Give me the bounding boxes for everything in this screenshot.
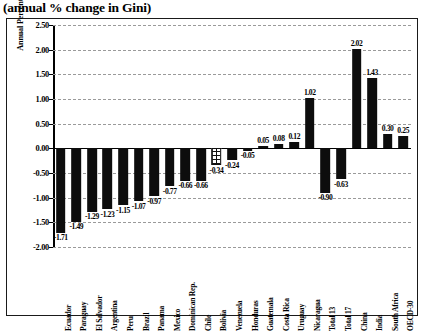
x-axis-category-labels: EcuadorParaguayEl SalvadorArgentinaPeruB… (53, 253, 411, 333)
y-axis-tick-mark (49, 247, 53, 248)
x-axis-label: Venezuela (235, 301, 244, 331)
bar[interactable] (87, 148, 97, 212)
bar-value-label: 0.25 (397, 126, 409, 135)
y-axis-tick-label: -2.00 (33, 243, 49, 252)
bar[interactable] (56, 148, 66, 232)
bar-slot: 0.05 (255, 25, 271, 247)
bar[interactable] (196, 148, 206, 181)
x-axis-label: Panama (157, 306, 166, 331)
bar-slot: -0.24 (224, 25, 240, 247)
bar-slot: -0.05 (240, 25, 256, 247)
x-axis-label: Bolivia (219, 310, 228, 331)
bar[interactable] (180, 148, 190, 181)
bar-value-label: 2.02 (351, 39, 363, 48)
bar-value-label: 0.30 (382, 124, 394, 133)
bar-slot: -1.23 (100, 25, 116, 247)
plot-area: 2.502.001.501.000.500.00-0.50-1.00-1.50-… (53, 25, 411, 247)
bar[interactable] (118, 148, 128, 205)
bar-slot: 1.43 (364, 25, 380, 247)
y-axis-tick-label: 1.00 (36, 95, 49, 104)
y-axis-tick-label: -1.50 (33, 218, 49, 227)
x-axis-label: South Africa (391, 293, 400, 331)
y-axis-tick-label: 2.00 (36, 45, 49, 54)
bar-series: -1.71-1.49-1.29-1.23-1.15-1.07-0.97-0.77… (53, 25, 411, 247)
bar-slot: -0.34 (209, 25, 225, 247)
x-axis-label: Honduras (251, 301, 260, 332)
bar[interactable] (367, 78, 377, 149)
bar[interactable] (165, 148, 175, 186)
x-axis-label: Chile (204, 315, 213, 331)
x-axis-label: Brazil (142, 313, 151, 331)
bar[interactable] (103, 148, 113, 209)
bar-value-label: -1.07 (132, 202, 146, 211)
bar-value-label: -0.77 (163, 187, 177, 196)
x-axis-label: Nicaragua (313, 300, 322, 332)
x-axis-label: India (375, 315, 384, 331)
x-axis-label: China (360, 312, 369, 331)
x-axis-label: Dominican Rep. (188, 282, 197, 331)
bar[interactable] (274, 144, 284, 148)
bar[interactable] (305, 98, 315, 148)
x-axis-label: Total 13 (328, 307, 337, 331)
bar[interactable] (258, 146, 268, 148)
bar-value-label: 1.02 (304, 88, 316, 97)
bar-slot: 1.02 (302, 25, 318, 247)
x-axis-label: OECD-30 (406, 301, 415, 331)
bar-slot: -1.49 (69, 25, 85, 247)
bar[interactable] (289, 142, 299, 148)
bar-slot: -1.29 (84, 25, 100, 247)
x-axis-label: Ecuador (64, 305, 73, 331)
bar-slot: 0.08 (271, 25, 287, 247)
bar-value-label: -1.49 (69, 222, 83, 231)
gridline (53, 247, 411, 248)
bar-slot: -1.71 (53, 25, 69, 247)
bar-slot: -0.66 (193, 25, 209, 247)
bar-slot: 0.30 (380, 25, 396, 247)
y-axis-tick-label: 1.50 (36, 70, 49, 79)
bar-slot: 0.12 (286, 25, 302, 247)
bar-value-label: -0.66 (194, 181, 208, 190)
bar[interactable] (336, 148, 346, 179)
bar[interactable] (352, 49, 362, 149)
bar-value-label: -1.15 (116, 206, 130, 215)
bar-value-label: -0.63 (334, 180, 348, 189)
bar-value-label: 0.12 (288, 132, 300, 141)
bar-value-label: -0.66 (178, 181, 192, 190)
x-axis-label: Guatemala (266, 297, 275, 331)
bar-value-label: 0.08 (273, 134, 285, 143)
x-axis-label: Total 17 (344, 307, 353, 331)
bar[interactable] (149, 148, 159, 196)
bar-value-label: -0.34 (210, 166, 224, 175)
bar-value-label: -0.97 (147, 197, 161, 206)
bar-value-label: 0.05 (257, 136, 269, 145)
bar[interactable] (134, 148, 144, 201)
bar[interactable] (383, 134, 393, 149)
x-axis-label: Mexico (173, 309, 182, 331)
bar[interactable] (227, 148, 237, 160)
y-axis-tick-label: -0.50 (33, 169, 49, 178)
bar-slot: 2.02 (349, 25, 365, 247)
bar[interactable] (321, 148, 331, 192)
bar-value-label: -1.23 (101, 210, 115, 219)
bar[interactable] (212, 148, 222, 165)
bar-slot: -0.63 (333, 25, 349, 247)
chart-caption: (annual % change in Gini) (3, 0, 151, 16)
bar-slot: -0.77 (162, 25, 178, 247)
x-axis-label: Argentina (110, 300, 119, 331)
bar-value-label: -0.05 (241, 151, 255, 160)
bar-value-label: -1.71 (54, 233, 68, 242)
y-axis-tick-label: 0.50 (36, 119, 49, 128)
bar-value-label: 1.43 (366, 68, 378, 77)
bar-value-label: -1.29 (85, 212, 99, 221)
bar[interactable] (72, 148, 82, 222)
bar-value-label: -0.90 (318, 193, 332, 202)
bar-slot: -1.07 (131, 25, 147, 247)
bar-slot: -0.90 (318, 25, 334, 247)
bar[interactable] (398, 136, 408, 148)
y-axis-title: Annual Percent Change (16, 0, 25, 81)
x-axis-label: Costa Rica (282, 298, 291, 331)
y-axis-tick-label: -1.00 (33, 193, 49, 202)
y-axis-tick-label: 0.00 (36, 144, 49, 153)
chart-frame: Annual Percent Change 2.502.001.501.000.… (6, 18, 418, 316)
